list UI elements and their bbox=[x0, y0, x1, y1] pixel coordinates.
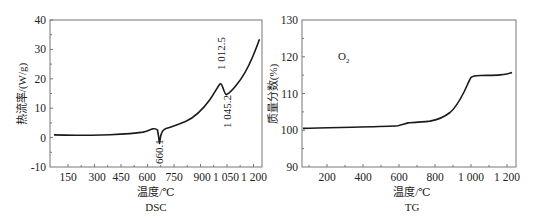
dsc-chart: 40 30 20 10 0 -10 150 300 450 600 750 90… bbox=[15, 14, 267, 213]
dsc-ytick: 0 bbox=[40, 132, 46, 144]
tg-xtick: 400 bbox=[354, 171, 372, 183]
tg-ytick: 120 bbox=[281, 51, 299, 63]
dsc-xtick: 1 200 bbox=[241, 171, 267, 183]
dsc-ytick: 20 bbox=[35, 73, 47, 85]
tg-xtick: 1 000 bbox=[458, 171, 484, 183]
dsc-annotation-660: 660.1 bbox=[153, 139, 165, 164]
dsc-ytick: -10 bbox=[31, 161, 47, 173]
dsc-xtick: 300 bbox=[88, 171, 106, 183]
dsc-xtick: 450 bbox=[112, 171, 130, 183]
tg-xtick: 600 bbox=[390, 171, 408, 183]
dsc-xtick: 150 bbox=[59, 171, 77, 183]
gas-label-o2: O2 bbox=[338, 50, 350, 65]
figure: 40 30 20 10 0 -10 150 300 450 600 750 90… bbox=[0, 0, 535, 221]
tg-xtick: 1 200 bbox=[494, 171, 520, 183]
dsc-xtick: 600 bbox=[138, 171, 156, 183]
tg-y-axis-label: 质量分数(%) bbox=[267, 63, 280, 124]
dsc-y-tick-labels: 40 30 20 10 0 -10 bbox=[31, 14, 47, 173]
dsc-y-axis-label: 热流率/(W/g) bbox=[15, 63, 29, 126]
tg-ytick: 90 bbox=[287, 161, 299, 173]
tg-x-tick-labels: 200 400 600 800 1 000 1 200 bbox=[318, 171, 520, 183]
tg-y-tick-labels: 130 120 110 100 90 bbox=[281, 14, 299, 173]
dsc-ytick: 30 bbox=[35, 43, 47, 55]
dsc-x-tick-labels: 150 300 450 600 750 900 1 050 1 200 bbox=[59, 171, 267, 183]
tg-ytick: 100 bbox=[281, 124, 299, 136]
dsc-xtick: 900 bbox=[193, 171, 211, 183]
dsc-annotation-1045: 1 045.2 bbox=[221, 95, 233, 128]
tg-xtick: 800 bbox=[426, 171, 444, 183]
dsc-annotation-1012: 1 012.5 bbox=[215, 37, 227, 71]
dsc-xtick: 1 050 bbox=[213, 171, 239, 183]
dsc-ytick: 10 bbox=[35, 102, 47, 114]
tg-x-axis-label: 温度/℃ bbox=[393, 185, 430, 198]
dsc-xtick: 750 bbox=[165, 171, 183, 183]
tg-ytick: 130 bbox=[281, 14, 299, 26]
tg-plot-frame bbox=[302, 20, 516, 167]
dsc-x-axis-label: 温度/℃ bbox=[137, 185, 174, 198]
tg-ytick: 110 bbox=[281, 88, 298, 100]
dsc-panel-title: DSC bbox=[145, 201, 166, 213]
tg-curve bbox=[303, 73, 512, 129]
tg-xtick: 200 bbox=[318, 171, 336, 183]
dsc-ytick: 40 bbox=[35, 14, 47, 26]
tg-chart: 130 120 110 100 90 200 400 600 800 1 000… bbox=[267, 14, 520, 213]
tg-panel-title: TG bbox=[405, 201, 420, 213]
gas-label-main: O bbox=[338, 50, 346, 62]
gas-label-subscript: 2 bbox=[346, 57, 350, 65]
